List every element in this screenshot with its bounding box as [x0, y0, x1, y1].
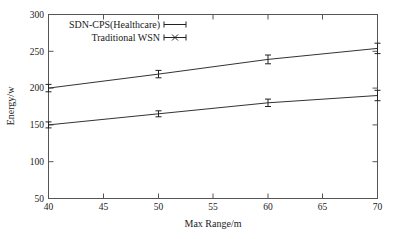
y-tick-label: 300 [30, 10, 45, 20]
legend-label-sdn-cps: SDN-CPS(Healthcare) [69, 19, 160, 31]
x-tick-label: 65 [318, 202, 328, 212]
series-sdn-cps [46, 43, 381, 92]
x-tick-label: 50 [154, 202, 164, 212]
y-axis-title: Energy/w [5, 86, 16, 125]
series-traditional-wsn-line [49, 96, 378, 125]
x-tick-label: 60 [263, 202, 273, 212]
chart-canvas: 50 100 150 200 250 300 40 45 50 55 60 65… [0, 0, 394, 239]
series-sdn-cps-line [49, 48, 378, 88]
y-tick-labels: 50 100 150 200 250 300 [30, 10, 45, 204]
series-traditional-wsn-errorbars [46, 90, 381, 128]
series-traditional-wsn [46, 90, 381, 128]
x-axis-title: Max Range/m [185, 218, 242, 229]
y-tick-label: 150 [30, 120, 45, 130]
series-sdn-cps-errorbars [46, 43, 381, 92]
legend-marker-errorbar-cross-icon [164, 35, 186, 41]
x-tick-label: 40 [44, 202, 54, 212]
y-tick-label: 200 [30, 83, 45, 93]
x-tick-labels: 40 45 50 55 60 65 70 [44, 202, 383, 212]
y-tick-label: 250 [30, 47, 45, 57]
legend-marker-errorbar-plain-icon [164, 22, 186, 28]
chart-figure: 50 100 150 200 250 300 40 45 50 55 60 65… [0, 0, 394, 239]
chart-legend: SDN-CPS(Healthcare) Traditional WSN [69, 19, 186, 43]
x-tick-label: 70 [373, 202, 383, 212]
x-tick-label: 45 [99, 202, 109, 212]
y-tick-label: 100 [30, 157, 45, 167]
x-tick-label: 55 [208, 202, 218, 212]
legend-label-traditional-wsn: Traditional WSN [91, 32, 160, 43]
